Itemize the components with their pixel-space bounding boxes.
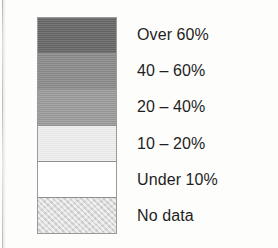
swatch-no-data (38, 198, 116, 233)
legend-label-under-10: Under 10% (137, 162, 272, 198)
legend-label-10-20: 10 – 20% (137, 126, 272, 162)
legend-label-20-40: 20 – 40% (137, 89, 272, 125)
swatch-over-60 (38, 18, 116, 54)
legend-label-over-60: Over 60% (137, 17, 272, 53)
legend-swatch-column (37, 17, 117, 234)
legend-label-no-data: No data (137, 198, 272, 234)
legend-label-40-60: 40 – 60% (137, 53, 272, 89)
scan-edge-gradient-artifact (3, 0, 6, 248)
swatch-10-20 (38, 126, 116, 162)
swatch-under-10 (38, 162, 116, 198)
map-legend-figure: Over 60% 40 – 60% 20 – 40% 10 – 20% Unde… (0, 0, 278, 248)
legend-label-column: Over 60% 40 – 60% 20 – 40% 10 – 20% Unde… (137, 17, 272, 234)
swatch-40-60 (38, 54, 116, 90)
swatch-20-40 (38, 90, 116, 126)
